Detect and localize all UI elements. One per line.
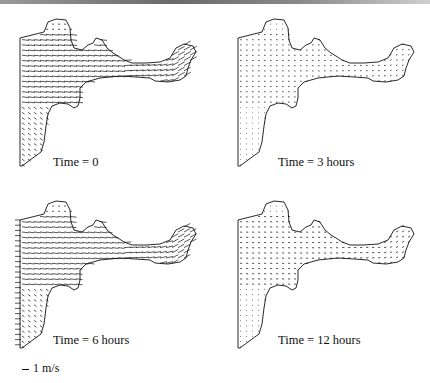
- panel-time-3-hours: Time = 3 hours: [218, 10, 430, 180]
- velocity-scale-legend: 1 m/s: [22, 361, 59, 376]
- panel-caption: Time = 3 hours: [278, 155, 354, 170]
- panel-time-12-hours: Time = 12 hours: [218, 192, 430, 362]
- panel-caption: Time = 12 hours: [278, 333, 361, 348]
- page-top-edge: [0, 0, 430, 4]
- scale-label: 1 m/s: [33, 361, 59, 375]
- panel-time-0: Time = 0: [0, 10, 215, 180]
- panel-caption: Time = 6 hours: [53, 333, 129, 348]
- panel-time-6-hours: Time = 6 hours: [0, 192, 215, 362]
- panel-caption: Time = 0: [53, 155, 99, 170]
- velocity-field-plot: [0, 10, 215, 180]
- scale-bar-icon: [22, 369, 29, 371]
